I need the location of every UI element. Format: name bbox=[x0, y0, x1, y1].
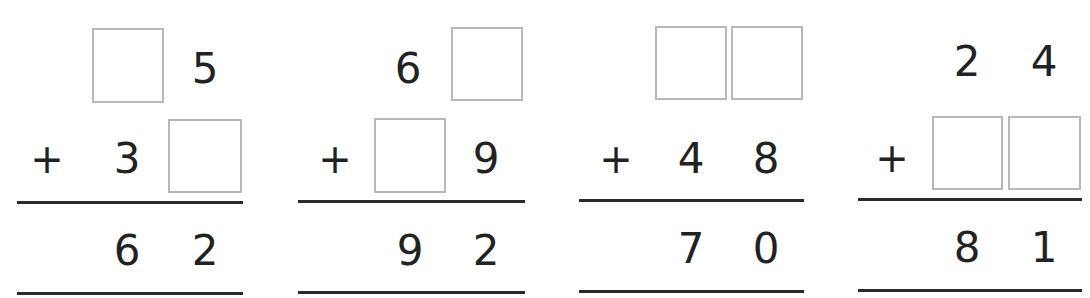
addend-tens-digit: 4 bbox=[661, 137, 721, 181]
sum-divider-line bbox=[858, 198, 1082, 201]
problem-2: 6 + 9 9 2 bbox=[280, 0, 540, 298]
top-ones-digit: 4 bbox=[1014, 40, 1074, 84]
bottom-line bbox=[858, 289, 1082, 292]
answer-box-addend-tens[interactable] bbox=[374, 118, 446, 193]
answer-box-addend-ones[interactable] bbox=[168, 119, 242, 193]
addend-ones-digit: 9 bbox=[456, 137, 516, 181]
addend-ones-digit: 8 bbox=[736, 137, 796, 181]
sum-tens-digit: 7 bbox=[661, 227, 721, 271]
answer-box-top-tens[interactable] bbox=[92, 28, 164, 103]
bottom-line bbox=[298, 291, 525, 294]
sum-tens-digit: 8 bbox=[937, 226, 997, 270]
sum-divider-line bbox=[298, 200, 525, 203]
answer-box-addend-tens[interactable] bbox=[932, 116, 1003, 190]
plus-sign: + bbox=[862, 136, 922, 180]
sum-ones-digit: 2 bbox=[456, 229, 516, 273]
plus-sign: + bbox=[17, 137, 77, 181]
sum-ones-digit: 2 bbox=[175, 229, 235, 273]
problem-4: 2 4 + 8 1 bbox=[830, 0, 1090, 298]
problem-1: 5 + 3 6 2 bbox=[0, 0, 260, 298]
plus-sign: + bbox=[305, 137, 365, 181]
sum-divider-line bbox=[579, 199, 804, 202]
problem-3: + 4 8 7 0 bbox=[560, 0, 830, 298]
addend-tens-digit: 3 bbox=[97, 137, 157, 181]
answer-box-top-tens[interactable] bbox=[655, 26, 727, 100]
bottom-line bbox=[579, 290, 804, 293]
answer-box-top-ones[interactable] bbox=[451, 27, 523, 101]
plus-sign: + bbox=[586, 137, 646, 181]
bottom-line bbox=[17, 292, 243, 295]
top-tens-digit: 6 bbox=[378, 47, 438, 91]
sum-divider-line bbox=[17, 201, 243, 204]
top-tens-digit: 2 bbox=[937, 40, 997, 84]
sum-ones-digit: 1 bbox=[1014, 226, 1074, 270]
sum-tens-digit: 9 bbox=[380, 229, 440, 273]
top-ones-digit: 5 bbox=[175, 47, 235, 91]
sum-tens-digit: 6 bbox=[97, 229, 157, 273]
answer-box-top-ones[interactable] bbox=[731, 26, 803, 100]
answer-box-addend-ones[interactable] bbox=[1008, 116, 1081, 190]
sum-ones-digit: 0 bbox=[736, 227, 796, 271]
